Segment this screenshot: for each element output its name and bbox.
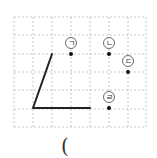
point-dot [107,52,111,56]
point-dot [69,52,73,56]
choice-point: ㄷ [123,56,134,75]
choice-point: ㄹ [104,92,115,111]
point-dot [107,106,111,110]
point-label: ㄱ [68,39,75,48]
angle-lines [33,54,90,108]
choice-points: ㄱㄴㄷㄹ [66,38,134,111]
point-label: ㄴ [106,39,113,48]
dot-grid-diagram: ㄱㄴㄷㄹ [0,0,157,158]
choice-point: ㄱ [66,38,77,57]
point-label: ㄷ [125,57,132,66]
point-label: ㄹ [106,93,113,102]
answer-bracket: ( [61,136,69,156]
choice-point: ㄴ [104,38,115,57]
point-dot [126,70,130,74]
